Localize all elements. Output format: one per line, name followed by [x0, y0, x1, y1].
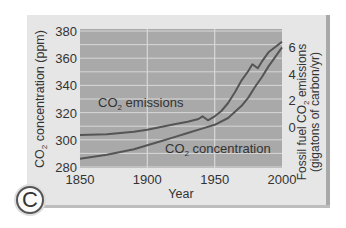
panel-label-badge: C — [16, 186, 44, 214]
x-axis-label: Year — [168, 187, 193, 201]
co2-chart: 28030032034036038002461850190019502000 C… — [0, 0, 346, 228]
concentration-annotation: CO2 concentration — [165, 141, 271, 158]
x-tick: 2000 — [268, 172, 297, 187]
x-tick: 1900 — [133, 172, 162, 187]
svg-text:(gigatons of carbon/yr): (gigatons of carbon/yr) — [308, 52, 322, 172]
y-right-label: Fossil fuel CO2 emissions(gigatons of ca… — [295, 44, 322, 181]
svg-text:CO2 concentration (ppm): CO2 concentration (ppm) — [33, 30, 49, 168]
y-left-tick: 300 — [55, 133, 77, 148]
x-tick: 1950 — [200, 172, 229, 187]
y-left-tick: 320 — [55, 106, 77, 121]
y-left-tick: 360 — [55, 51, 77, 66]
panel-label: C — [22, 187, 38, 213]
emissions-annotation: CO2 emissions — [98, 95, 184, 112]
y-left-tick: 380 — [55, 24, 77, 39]
x-tick: 1850 — [66, 172, 95, 187]
y-left-tick: 340 — [55, 78, 77, 93]
y-left-label: CO2 concentration (ppm) — [33, 30, 49, 168]
